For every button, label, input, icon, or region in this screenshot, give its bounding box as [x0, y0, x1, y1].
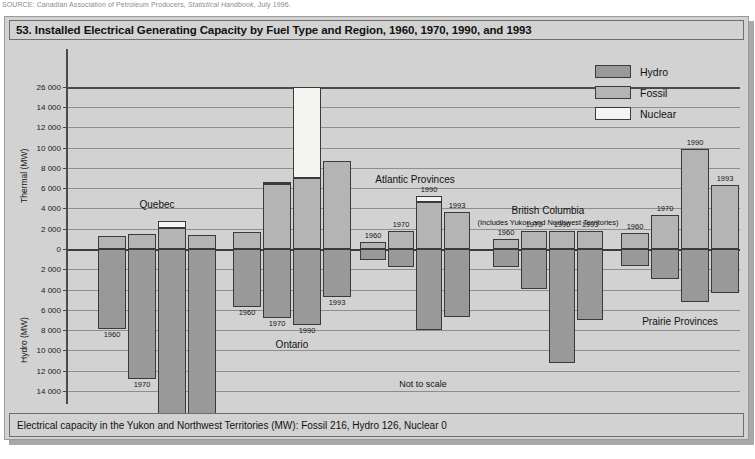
y-tick-mark-up-7 [63, 229, 68, 230]
bar-prairie-1960-hydro [621, 249, 649, 266]
legend-item-fossil: Fossil [595, 84, 715, 101]
year-label-prairie-1960: 1960 [627, 222, 644, 231]
y-tick-label-up-7: 2 000 [41, 224, 61, 233]
bar-british-columbia-1960-hydro [493, 249, 519, 267]
region-label-british-columbia: British Columbia [512, 205, 585, 216]
gridline-up-8000 [68, 168, 740, 169]
year-label-ontario-1990: 1990 [299, 326, 316, 335]
bar-quebec-1990-nuclear [158, 221, 186, 228]
bar-prairie-1970-hydro [651, 249, 679, 279]
bar-atlantic-1970-hydro [388, 249, 414, 267]
y-axis-title-hydro: Hydro (MW) [19, 317, 29, 363]
bar-ontario-1970-nuclear [263, 182, 291, 184]
bar-prairie-1990-hydro [681, 249, 709, 302]
bar-ontario-1990-hydro [293, 249, 321, 325]
y-tick-label-dn-3: 8 000 [41, 326, 61, 335]
y-tick-mark-dn-3 [63, 330, 68, 331]
bar-atlantic-1993-hydro [444, 249, 470, 317]
bar-quebec-1990-fossil [158, 228, 186, 249]
gridline-up-6000 [68, 188, 740, 189]
year-label-prairie-1993: 1993 [717, 174, 734, 183]
chart-legend: HydroFossilNuclear [595, 63, 715, 126]
y-tick-mark-zero-0 [63, 249, 68, 250]
y-tick-mark-dn-6 [63, 391, 68, 392]
bar-ontario-1960-hydro [233, 249, 261, 307]
bar-british-columbia-1990-fossil [549, 231, 575, 249]
y-axis-labels: 26 00014 00012 00010 0008 0006 0004 0002… [9, 49, 61, 404]
y-tick-mark-dn-5 [63, 371, 68, 372]
bar-atlantic-1960-hydro [360, 249, 386, 260]
bar-quebec-1993-hydro [188, 249, 216, 425]
bar-british-columbia-1993-fossil [577, 231, 603, 249]
chart-title-bar: 53. Installed Electrical Generating Capa… [9, 20, 744, 40]
y-tick-mark-dn-0 [63, 269, 68, 270]
year-label-atlantic-1990: 1990 [421, 185, 438, 194]
y-tick-label-up-2: 12 000 [37, 123, 61, 132]
y-tick-label-up-4: 8 000 [41, 163, 61, 172]
bar-ontario-1993-fossil [323, 161, 351, 249]
bar-atlantic-1990-hydro [416, 249, 442, 330]
bar-prairie-1970-fossil [651, 215, 679, 249]
y-tick-label-dn-0: 2 000 [41, 265, 61, 274]
not-to-scale-note: Not to scale [399, 379, 447, 389]
y-tick-mark-up-4 [63, 168, 68, 169]
footer-note-box: Electrical capacity in the Yukon and Nor… [9, 413, 744, 437]
bar-ontario-1960-fossil [233, 232, 261, 249]
y-tick-mark-up-2 [63, 127, 68, 128]
region-sublabel-british-columbia: (Includes Yukon and Northwest Territorie… [477, 218, 618, 227]
year-label-atlantic-1993: 1993 [449, 201, 466, 210]
bar-ontario-1970-fossil [263, 184, 291, 249]
y-axis-title-thermal: Thermal (MW) [19, 149, 29, 203]
y-tick-mark-up-3 [63, 148, 68, 149]
y-tick-mark-dn-2 [63, 310, 68, 311]
y-tick-label-up-5: 6 000 [41, 184, 61, 193]
plot-area-wrapper: 26 00014 00012 00010 0008 0006 0004 0002… [9, 43, 744, 412]
bar-ontario-1990-fossil [293, 178, 321, 249]
legend-item-nuclear: Nuclear [595, 105, 715, 122]
year-label-atlantic-1960: 1960 [365, 231, 382, 240]
legend-label-nuclear: Nuclear [640, 108, 676, 120]
bar-atlantic-1993-fossil [444, 212, 470, 249]
y-tick-label-dn-2: 6 000 [41, 305, 61, 314]
region-label-ontario: Ontario [276, 339, 309, 350]
y-tick-label-dn-5: 12 000 [37, 366, 61, 375]
legend-swatch-hydro-icon [595, 65, 631, 78]
bar-atlantic-1990-nuclear [416, 196, 442, 202]
year-label-british-columbia-1960: 1960 [498, 228, 515, 237]
year-label-atlantic-1970: 1970 [393, 220, 410, 229]
year-label-ontario-1970: 1970 [269, 319, 286, 328]
bar-british-columbia-1960-fossil [493, 239, 519, 249]
y-tick-mark-up-0 [63, 87, 68, 88]
bar-prairie-1993-fossil [711, 185, 739, 249]
bar-ontario-1970-hydro [263, 249, 291, 318]
bar-prairie-1993-hydro [711, 249, 739, 293]
region-label-atlantic: Atlantic Provinces [375, 174, 454, 185]
bar-british-columbia-1993-hydro [577, 249, 603, 320]
bar-quebec-1970-fossil [128, 234, 156, 249]
source-italic-title: Statistical Handbook [188, 1, 254, 8]
source-citation: SOURCE: Canadian Association of Petroleu… [2, 1, 291, 8]
y-tick-mark-up-1 [63, 107, 68, 108]
legend-item-hydro: Hydro [595, 63, 715, 80]
bar-prairie-1990-fossil [681, 149, 709, 249]
bar-british-columbia-1970-fossil [521, 231, 547, 249]
y-tick-label-up-1: 14 000 [37, 103, 61, 112]
y-tick-label-up-0: 26 000 [37, 83, 61, 92]
y-tick-label-up-3: 10 000 [37, 143, 61, 152]
footer-note: Electrical capacity in the Yukon and Nor… [10, 420, 447, 431]
bar-quebec-1960-hydro [98, 249, 126, 329]
year-label-prairie-1990: 1990 [687, 138, 704, 147]
bar-quebec-1993-fossil [188, 235, 216, 249]
bar-ontario-1993-hydro [323, 249, 351, 297]
bar-quebec-1970-hydro [128, 249, 156, 379]
bar-british-columbia-1990-hydro [549, 249, 575, 363]
bar-atlantic-1970-fossil [388, 231, 414, 249]
gridline-up-10000 [68, 148, 740, 149]
source-suffix: , July 1996. [254, 1, 291, 8]
y-tick-mark-up-6 [63, 208, 68, 209]
bar-ontario-1990-nuclear [293, 87, 321, 178]
bar-quebec-1990-hydro [158, 249, 186, 416]
bar-prairie-1960-fossil [621, 233, 649, 249]
bar-atlantic-1960-fossil [360, 242, 386, 249]
y-tick-mark-dn-4 [63, 350, 68, 351]
